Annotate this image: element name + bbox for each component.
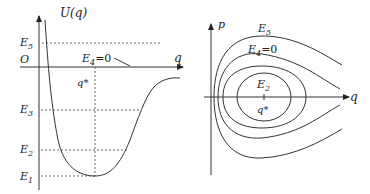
e4-zero-label: E4=0 — [81, 52, 111, 67]
orbit-e4 — [218, 54, 340, 139]
u-axis-label: U(q) — [60, 6, 87, 20]
e4-orbit-label: E4=0 — [247, 43, 277, 58]
phase-q-axis-label: q — [350, 90, 358, 104]
e1-label: E1 — [19, 170, 33, 185]
potential-and-phase-portrait-figure: U(q) q O E5 E3 E2 E1 E4=0 q* p q E5 E4=0… — [0, 0, 370, 194]
origin-label: O — [20, 53, 29, 66]
e5-orbit-label: E5 — [257, 22, 271, 37]
e4-leader-line — [114, 58, 130, 66]
e3-label: E3 — [19, 103, 33, 118]
potential-curve — [45, 20, 180, 176]
qstar-label: q* — [77, 77, 88, 88]
potential-energy-plot: U(q) q O E5 E3 E2 E1 E4=0 q* — [19, 6, 183, 190]
phase-qstar-label: q* — [257, 104, 268, 115]
p-axis-label: p — [218, 18, 225, 31]
e5-label: E5 — [19, 36, 33, 51]
phase-portrait-plot: p q E5 E4=0 E2 q* — [204, 18, 358, 175]
q-axis-label: q — [174, 51, 182, 65]
e2-orbit-label: E2 — [256, 78, 270, 93]
e2-label: E2 — [19, 143, 33, 158]
